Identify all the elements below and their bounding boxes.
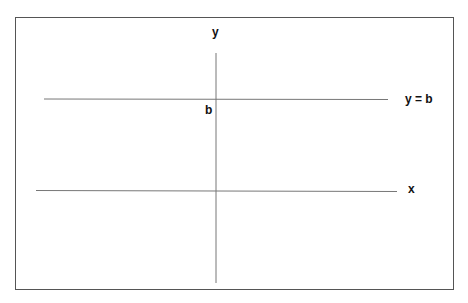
- line-equation-label: y = b: [405, 92, 433, 106]
- x-axis-label: x: [408, 182, 415, 196]
- intercept-label: b: [205, 103, 212, 117]
- y-axis-label: y: [212, 25, 219, 39]
- horizontal-line-y-equals-b: [44, 99, 388, 100]
- x-axis: [36, 191, 397, 192]
- graph-canvas: [0, 0, 468, 303]
